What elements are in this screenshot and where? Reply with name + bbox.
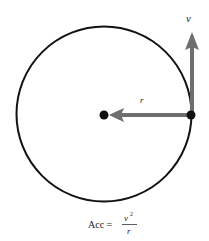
velocity-label: v [186, 12, 191, 24]
formula-numerator: v [124, 213, 128, 223]
circular-motion-diagram: v r Acc = v 2 r [0, 0, 209, 241]
formula-numerator-exp: 2 [130, 211, 133, 217]
object-dot [187, 111, 196, 120]
center-dot [100, 111, 109, 120]
formula-denominator: r [127, 226, 131, 236]
radius-label: r [140, 95, 144, 105]
formula-lhs: Acc = [88, 219, 113, 230]
